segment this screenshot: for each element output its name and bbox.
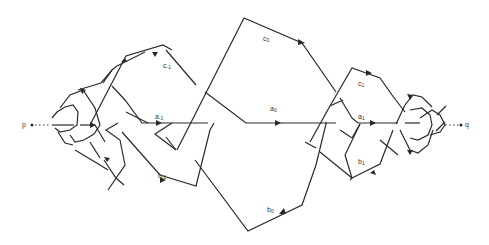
arrow-a1: [370, 120, 376, 126]
braid-diagram: [0, 0, 489, 245]
label-b-minus1-sub: -1: [162, 174, 166, 180]
label-b-0-sub: 0: [271, 208, 274, 214]
right-endpoint: [445, 124, 463, 127]
left-endpoint: [31, 124, 51, 127]
label-c-0: c0: [263, 35, 269, 43]
endpoint-label-p: p: [22, 121, 26, 128]
label-a-1: a1: [358, 113, 365, 121]
label-c-0-sub: 0: [267, 37, 270, 43]
arrow-c0: [298, 39, 305, 45]
arrowheads: [80, 39, 413, 214]
arrow-b0: [279, 208, 286, 214]
arrow-right-lower: [407, 150, 413, 155]
label-a-1-sub: 1: [362, 115, 365, 121]
left-small-loops: [52, 90, 105, 158]
label-c-1-sub: 1: [362, 82, 365, 88]
label-a-minus1: a-1: [155, 113, 163, 121]
label-a-0: a0: [270, 105, 277, 113]
right-small-loops: [405, 106, 446, 140]
label-b-0: b0: [267, 206, 274, 214]
label-a-0-sub: 0: [274, 107, 277, 113]
arrow-a0: [275, 120, 281, 126]
arrow-left-mid: [90, 122, 96, 128]
central-loop: [166, 18, 352, 231]
label-c-minus1: c-1: [163, 62, 171, 70]
label-c-1: c1: [358, 80, 364, 88]
label-b-1: b1: [358, 158, 365, 166]
right-loop-plus1: [330, 68, 433, 180]
label-b-minus1: b-1: [158, 172, 166, 180]
endpoint-label-q: q: [465, 121, 469, 128]
label-b-1-sub: 1: [362, 160, 365, 166]
arrow-b1: [370, 170, 376, 175]
label-a-minus1-sub: -1: [159, 115, 163, 121]
arrow-c-1: [152, 52, 158, 57]
label-c-minus1-sub: -1: [167, 64, 171, 70]
